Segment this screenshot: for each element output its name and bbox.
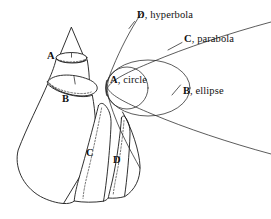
- label-hyperbola-name: hyperbola: [150, 9, 193, 20]
- cone-section-label-b: B: [62, 94, 69, 105]
- conic-sections-figure: D, hyperbola C, parabola A, circle B, el…: [0, 0, 271, 219]
- cone-assembly: [17, 28, 140, 204]
- label-hyperbola-letter: D: [137, 9, 145, 20]
- ellipse-leader-line: [172, 85, 181, 95]
- label-ellipse-name: ellipse: [196, 85, 224, 96]
- label-parabola-letter: C: [184, 33, 192, 44]
- label-parabola-name: parabola: [197, 33, 234, 44]
- cone-section-label-c: C: [86, 148, 94, 159]
- label-circle-letter: A: [110, 74, 118, 85]
- parabola-leader-line: [168, 43, 182, 51]
- label-parabola: C, parabola: [184, 34, 234, 45]
- cone-section-label-d: D: [113, 155, 121, 166]
- label-circle: A, circle: [110, 75, 147, 86]
- label-circle-name: circle: [123, 74, 147, 85]
- label-ellipse: B, ellipse: [183, 86, 224, 97]
- cone-section-label-a: A: [47, 51, 55, 62]
- label-hyperbola: D, hyperbola: [137, 10, 193, 21]
